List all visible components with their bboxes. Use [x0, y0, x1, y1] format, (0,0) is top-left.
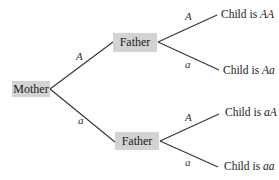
child-prefix: Child is [225, 106, 264, 118]
child-Aa: Child is Aa [223, 64, 275, 76]
genotype: Aa [262, 64, 275, 76]
father-node-top: Father [113, 33, 157, 52]
child-AA: Child is AA [221, 8, 274, 20]
edge-label-bottom-a: a [185, 156, 191, 168]
child-aa: Child is aa [224, 160, 274, 172]
father-node-bottom: Father [115, 132, 159, 150]
genotype: aa [263, 160, 275, 172]
mother-node: Mother [12, 81, 50, 97]
edge-label-top-A: A [185, 10, 192, 22]
edge-label-bottom-A: A [185, 111, 192, 123]
edge-label-top-a: a [185, 58, 191, 70]
genotype: aA [264, 106, 277, 118]
edge-label-mother-A: A [76, 50, 83, 62]
genotype: AA [260, 8, 274, 20]
child-prefix: Child is [221, 8, 260, 20]
edge-label-mother-a: a [78, 114, 84, 126]
child-aA: Child is aA [225, 106, 277, 118]
child-prefix: Child is [223, 64, 262, 76]
child-prefix: Child is [224, 160, 263, 172]
